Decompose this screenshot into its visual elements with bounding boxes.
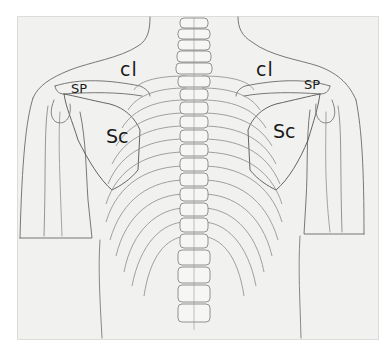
label-left-spine: SP [71, 82, 87, 95]
label-right-spine: SP [304, 78, 320, 91]
label-right-scapula: Sc [273, 122, 296, 141]
skeleton-drawing [0, 0, 392, 354]
label-left-clavicle: cl [120, 60, 138, 79]
label-left-scapula: Sc [106, 127, 129, 146]
anatomical-figure: cl cl SP SP Sc Sc [0, 0, 392, 354]
label-right-clavicle: cl [256, 60, 274, 79]
